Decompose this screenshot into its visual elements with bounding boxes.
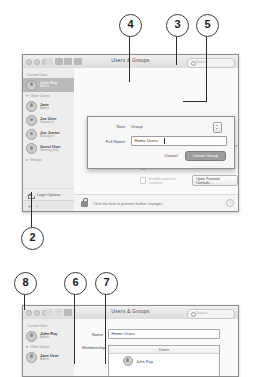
new-group-sheet[interactable]: New: Group Full Name: Home Users Cancel … <box>87 116 235 169</box>
callout-2-leader <box>31 192 32 227</box>
group-name-row: Name: Home Users <box>82 329 220 339</box>
users-and-groups-window-bottom[interactable]: Users & Groups Search Current User John … <box>22 305 239 377</box>
chevron-down-icon <box>26 346 28 348</box>
avatar <box>26 101 37 112</box>
group-name-value: Home Users <box>112 331 135 336</box>
other-users-header[interactable]: Other Users <box>23 92 74 99</box>
membership-list[interactable]: Users John Ray <box>108 345 220 377</box>
other-users-header[interactable]: Other Users <box>23 343 74 350</box>
avatar <box>26 115 37 126</box>
current-user-header: Current User <box>23 322 74 329</box>
password-change-button[interactable]: ent... <box>235 143 239 148</box>
checkbox-parental-row[interactable]: Enable parental controls Open Parental C… <box>140 175 238 186</box>
sidebar-item-joe-user[interactable]: Joe User Standard <box>23 113 74 127</box>
sidebar-item-john-ray[interactable]: John Ray Admin <box>23 78 74 92</box>
search-placeholder-bottom: Search <box>196 311 207 315</box>
groups-header[interactable]: Groups <box>23 156 74 163</box>
login-options-label: Login Options <box>37 193 60 197</box>
checkbox-icon[interactable] <box>140 177 146 183</box>
avatar <box>26 331 37 342</box>
other-users-label: Other Users <box>30 345 49 349</box>
open-parental-controls-button[interactable]: Open Parental Controls... <box>192 175 238 186</box>
membership-label: Membership: <box>82 345 104 350</box>
group-name-label: Name: <box>82 332 104 337</box>
sidebar-item-jane-user[interactable]: Jane User Admin <box>23 350 74 364</box>
callout-6-leader <box>74 293 75 364</box>
callout-7: 7 <box>95 272 118 295</box>
lock-open-icon[interactable] <box>81 198 88 207</box>
new-row: New: Group <box>96 124 143 129</box>
full-name-value: Home Users <box>135 138 158 143</box>
callout-5: 5 <box>196 14 219 37</box>
user-role: Standard <box>40 121 56 124</box>
callout-4: 4 <box>119 14 142 37</box>
callout-8-leader <box>24 293 25 310</box>
callout-3: 3 <box>166 14 189 37</box>
user-role: Admin <box>40 336 58 339</box>
callout-3-leader <box>176 35 177 65</box>
other-users-label: Other Users <box>30 94 49 98</box>
avatar <box>26 80 37 91</box>
search-input-top[interactable]: Search <box>187 58 235 68</box>
title-bar-bottom[interactable]: Users & Groups Search <box>23 306 238 320</box>
chevron-right-icon <box>26 159 28 161</box>
search-input-bottom[interactable]: Search <box>187 309 235 319</box>
detail-pane-bottom: Name: Home Users Membership: Users John … <box>74 319 238 376</box>
sidebar-item-john-ray[interactable]: John Ray Admin <box>23 329 74 343</box>
full-name-label: Full Name: <box>96 139 126 144</box>
member-name: John Ray <box>136 359 153 364</box>
checkbox-parental-label: Enable parental controls <box>149 177 187 185</box>
avatar <box>123 356 133 366</box>
avatar <box>26 352 37 363</box>
full-name-row: Full Name: Home Users <box>96 136 227 146</box>
callout-5-leader-h <box>183 101 207 102</box>
new-type-popup-button[interactable] <box>213 122 222 133</box>
sidebar-bottom[interactable]: Current User John Ray Admin Other Users … <box>23 319 75 376</box>
user-role: Admin <box>40 358 59 361</box>
callout-2: 2 <box>21 227 44 250</box>
groups-label: Groups <box>30 158 42 162</box>
new-value[interactable]: Group <box>131 124 143 129</box>
chevron-down-icon <box>26 95 28 97</box>
text-caret <box>164 138 165 144</box>
callout-7-leader <box>105 293 106 364</box>
user-role: Admin <box>40 107 49 110</box>
sidebar-item-guest-user[interactable]: Guest User Sharing only <box>23 142 74 156</box>
new-label: New: <box>96 124 126 129</box>
callout-8: 8 <box>14 272 37 295</box>
group-name-input[interactable]: Home Users <box>108 329 220 339</box>
create-group-button[interactable]: Create Group <box>185 151 226 161</box>
membership-list-header: Users <box>109 346 219 354</box>
remove-user-button[interactable]: − <box>36 204 39 209</box>
lock-bar-top: Click the lock to prevent further change… <box>74 194 238 211</box>
current-user-header: Current User <box>23 71 74 78</box>
avatar <box>26 143 37 154</box>
sidebar-top[interactable]: Current User John Ray Admin Other Users … <box>23 68 75 211</box>
avatar <box>26 129 37 140</box>
callout-4-leader <box>129 35 130 82</box>
full-name-input[interactable]: Home Users <box>131 136 227 146</box>
help-icon[interactable]: ? <box>226 199 234 207</box>
user-role: Sharing only <box>40 149 61 152</box>
user-role: Admin <box>40 85 58 88</box>
sidebar-item-jane[interactable]: Jane Admin <box>23 99 74 113</box>
cancel-button[interactable]: Cancel <box>165 153 178 158</box>
lock-bar-text: Click the lock to prevent further change… <box>93 201 164 206</box>
list-item[interactable]: John Ray <box>123 356 153 366</box>
sidebar-item-joe-junior[interactable]: Joe Junior Managed <box>23 128 74 142</box>
user-role: Managed <box>40 135 60 138</box>
sheet-buttons[interactable]: Cancel Create Group <box>165 151 226 161</box>
membership-row: Membership: Users John Ray <box>82 345 220 377</box>
callout-6: 6 <box>64 272 87 295</box>
callout-5-leader <box>206 35 207 102</box>
